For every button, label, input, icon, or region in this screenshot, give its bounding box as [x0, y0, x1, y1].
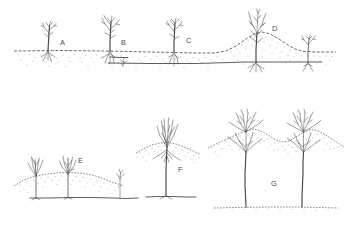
plant-d: D: [248, 9, 316, 72]
panel-f-root-line: [146, 197, 196, 198]
plant-d-right-shoot: [302, 35, 316, 71]
panel-g-base-ground-line: [214, 207, 338, 208]
panel-g-tree-left: [228, 109, 263, 207]
panel-g-soil-stipple: [212, 133, 345, 157]
panel-g-left-stilt-roots: [228, 132, 262, 152]
panel-f-tree: [146, 118, 196, 199]
panel-e-group: E: [14, 156, 138, 200]
panel-g-base-stipple: [220, 209, 329, 211]
plant-b-lateral-root: [110, 57, 128, 58]
panel-g-mound-surface: [208, 129, 344, 148]
panel-g-right-crown: [287, 109, 321, 132]
panel-label-d: D: [272, 24, 278, 33]
plant-a-roots: [41, 51, 55, 62]
panel-g-tree-right: [287, 109, 321, 207]
panel-label-g: G: [271, 179, 277, 188]
plant-b-sucker-shoot: [120, 58, 127, 67]
panel-e-root-line: [30, 198, 138, 199]
panel-g-right-trunk: [302, 152, 304, 207]
panel-label-a: A: [60, 38, 65, 47]
plant-a: A: [41, 22, 65, 63]
panel-f-group: F: [136, 118, 200, 199]
figure-root: A: [0, 0, 348, 229]
panel-e-mound-surface: [14, 173, 124, 187]
panel-g-left-trunk: [245, 152, 246, 207]
panel-f-trunk: [166, 147, 167, 196]
panel-label-b: B: [121, 38, 126, 47]
growth-stage-diagram: A: [0, 0, 348, 229]
panel-e-soil-stipple: [20, 176, 119, 194]
panel-label-e: E: [78, 156, 83, 165]
plant-b: B: [101, 16, 128, 67]
panel-g-right-stilt-roots: [287, 132, 320, 152]
top-row-group: A: [14, 9, 336, 72]
plant-c: C: [166, 18, 192, 66]
panel-label-f: F: [178, 165, 183, 174]
plant-d-roots: [248, 62, 264, 72]
panel-e-right-shoot: [117, 169, 124, 198]
panel-label-c: C: [186, 36, 192, 45]
panel-e-clump-1: [28, 157, 43, 200]
panel-f-crown: [157, 118, 178, 147]
panel-g-left-crown: [229, 109, 263, 132]
top-row-subsurface-root-line: [108, 62, 322, 64]
panel-e-clump-2: [60, 156, 77, 200]
panel-g-group: G: [208, 109, 344, 210]
